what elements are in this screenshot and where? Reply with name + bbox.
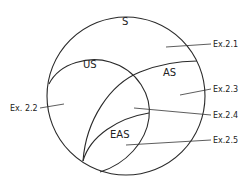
- callout-ex24: Ex.2.4: [213, 111, 238, 120]
- pointer-ex23: [180, 89, 211, 95]
- label-eas: EAS: [110, 129, 130, 140]
- pointer-ex22: [40, 104, 64, 108]
- label-s: S: [122, 16, 128, 27]
- callout-ex22: Ex. 2.2: [10, 104, 38, 113]
- pointer-ex25: [126, 140, 211, 145]
- label-us: US: [83, 59, 97, 70]
- label-as: AS: [163, 67, 176, 78]
- pointer-ex21: [166, 44, 211, 47]
- callout-ex23: Ex.2.3: [213, 85, 238, 94]
- set-as-boundary: [83, 61, 197, 161]
- callout-ex21: Ex.2.1: [213, 40, 238, 49]
- callout-ex25: Ex.2.5: [213, 136, 238, 145]
- set-s-circle: [47, 17, 205, 175]
- set-diagram: S US AS EAS Ex.2.1 Ex. 2.2 Ex.2.3 Ex.2.4…: [0, 0, 247, 185]
